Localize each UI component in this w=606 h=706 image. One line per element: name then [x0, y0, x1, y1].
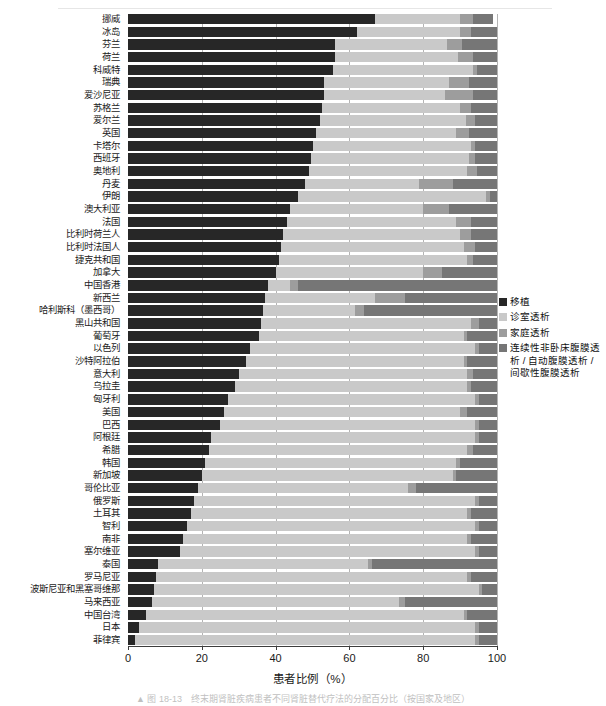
- bar-segment-capd: [477, 166, 497, 176]
- bar-segment-clinic: [265, 293, 376, 303]
- bar-segment-capd: [471, 572, 497, 582]
- bar-row: [128, 204, 497, 214]
- x-tick-label: 40: [269, 652, 281, 664]
- bar-segment-transplant: [128, 445, 209, 455]
- bar-segment-clinic: [320, 115, 466, 125]
- y-axis-label: 冰岛: [0, 27, 124, 37]
- y-axis-label: 俄罗斯: [0, 496, 124, 506]
- bar-segment-home: [423, 204, 449, 214]
- bar-segment-home: [458, 52, 473, 62]
- y-axis-label: 巴西: [0, 420, 124, 430]
- bar-segment-transplant: [128, 115, 320, 125]
- bar-segment-capd: [490, 191, 497, 201]
- bar-segment-clinic: [276, 267, 424, 277]
- bar-segment-home: [460, 229, 471, 239]
- bar-segment-clinic: [194, 496, 474, 506]
- bar-segment-clinic: [158, 559, 368, 569]
- bar-row: [128, 546, 497, 556]
- y-axis-label: 黑山共和国: [0, 318, 124, 328]
- y-axis-label: 韩国: [0, 458, 124, 468]
- bar-row: [128, 52, 497, 62]
- bar-row: [128, 407, 497, 417]
- bar-segment-transplant: [128, 496, 194, 506]
- bar-segment-transplant: [128, 293, 265, 303]
- bar-row: [128, 369, 497, 379]
- legend-swatch-icon: [499, 329, 507, 337]
- y-axis-label: 瑞典: [0, 77, 124, 87]
- bar-segment-clinic: [263, 305, 355, 315]
- bar-segment-clinic: [250, 343, 475, 353]
- bar-segment-home: [445, 90, 473, 100]
- bar-segment-clinic: [246, 356, 464, 366]
- bar-row: [128, 229, 497, 239]
- bar-segment-transplant: [128, 280, 268, 290]
- bar-segment-clinic: [268, 280, 290, 290]
- y-axis-label: 西班牙: [0, 153, 124, 163]
- bar-segment-clinic: [261, 318, 471, 328]
- bar-segment-transplant: [128, 483, 198, 493]
- bar-segment-clinic: [139, 622, 475, 632]
- bar-segment-home: [466, 115, 475, 125]
- bar-segment-capd: [477, 65, 497, 75]
- y-axis-label: 罗马尼亚: [0, 572, 124, 582]
- gridline: [497, 14, 498, 646]
- y-axis-label: 哥伦比亚: [0, 483, 124, 493]
- stacked-bars: [128, 14, 497, 646]
- bar-row: [128, 280, 497, 290]
- bar-segment-transplant: [128, 572, 156, 582]
- bar-row: [128, 153, 497, 163]
- bar-row: [128, 597, 497, 607]
- bar-segment-capd: [475, 242, 497, 252]
- bar-row: [128, 445, 497, 455]
- bar-row: [128, 318, 497, 328]
- bar-segment-capd: [469, 77, 497, 87]
- bar-segment-capd: [471, 103, 497, 113]
- bar-row: [128, 293, 497, 303]
- x-tick-label: 80: [417, 652, 429, 664]
- bar-segment-capd: [467, 356, 497, 366]
- legend-swatch-icon: [499, 344, 507, 352]
- bar-segment-transplant: [128, 356, 246, 366]
- bar-segment-clinic: [135, 635, 474, 645]
- bar-segment-capd: [479, 622, 497, 632]
- bar-segment-home: [460, 407, 467, 417]
- x-tick-mark: [128, 646, 129, 650]
- bar-row: [128, 622, 497, 632]
- bar-segment-capd: [482, 584, 497, 594]
- figure-caption: ▲ 图 18-13 终末期肾脏疾病患者不同肾脏替代疗法的分配百分比（按国家及地区…: [0, 692, 606, 706]
- bar-segment-transplant: [128, 534, 183, 544]
- bar-segment-clinic: [209, 445, 467, 455]
- bar-segment-clinic: [205, 458, 456, 468]
- y-axis-label: 乌拉圭: [0, 381, 124, 391]
- bar-segment-capd: [473, 90, 497, 100]
- bar-segment-transplant: [128, 432, 211, 442]
- bar-segment-transplant: [128, 458, 205, 468]
- bar-segment-clinic: [335, 39, 448, 49]
- legend: 移植诊室透析家庭透析连续性非卧床腹膜透析 / 自动腹膜透析 / 间歇性腹膜透析: [499, 296, 603, 382]
- bar-segment-transplant: [128, 584, 154, 594]
- bar-segment-transplant: [128, 128, 316, 138]
- bar-segment-clinic: [335, 52, 459, 62]
- bar-segment-clinic: [305, 179, 419, 189]
- y-axis-label: 希腊: [0, 445, 124, 455]
- bar-row: [128, 191, 497, 201]
- y-axis-label: 荷兰: [0, 52, 124, 62]
- y-axis-label: 卡塔尔: [0, 141, 124, 151]
- bar-row: [128, 305, 497, 315]
- bar-segment-transplant: [128, 381, 235, 391]
- bar-segment-transplant: [128, 153, 311, 163]
- bar-segment-capd: [449, 204, 497, 214]
- x-tick-label: 60: [343, 652, 355, 664]
- bar-segment-clinic: [211, 432, 475, 442]
- bar-segment-transplant: [128, 369, 239, 379]
- y-axis-label: 中国台湾: [0, 610, 124, 620]
- bar-segment-transplant: [128, 305, 263, 315]
- y-axis-label: 捷克共和国: [0, 255, 124, 265]
- bar-segment-clinic: [183, 534, 467, 544]
- bar-row: [128, 14, 497, 24]
- bar-row: [128, 610, 497, 620]
- bar-segment-capd: [479, 496, 497, 506]
- bar-segment-transplant: [128, 242, 281, 252]
- bar-segment-capd: [456, 470, 497, 480]
- bar-row: [128, 559, 497, 569]
